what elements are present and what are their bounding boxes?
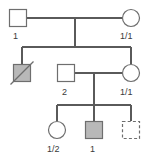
male-symbol[interactable] — [10, 10, 27, 27]
female-symbol[interactable] — [49, 122, 66, 139]
pedigree-individual-ii-1[interactable] — [11, 62, 34, 85]
pedigree-individual-i-2[interactable] — [123, 10, 140, 27]
pedigree-chart: 11/121/11/21 — [0, 0, 152, 159]
pedigree-individual-i-1[interactable] — [10, 10, 27, 27]
pedigree-individual-ii-3[interactable] — [123, 65, 140, 82]
male-symbol[interactable] — [58, 65, 75, 82]
male-symbol[interactable] — [123, 122, 140, 139]
pedigree-individual-iii-2[interactable] — [86, 122, 103, 139]
connector-layer — [22, 18, 131, 121]
male-symbol[interactable] — [86, 122, 103, 139]
pedigree-individual-iii-1[interactable] — [49, 122, 66, 139]
pedigree-individual-iii-3[interactable] — [123, 122, 140, 139]
female-symbol[interactable] — [123, 65, 140, 82]
pedigree-canvas — [0, 0, 152, 159]
female-symbol[interactable] — [123, 10, 140, 27]
pedigree-individual-ii-2[interactable] — [58, 65, 75, 82]
